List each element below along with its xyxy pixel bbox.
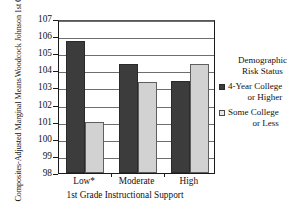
gridline [59, 21, 214, 22]
y-tick-label: 99 [12, 152, 52, 161]
bar-low--series-2 [85, 122, 104, 173]
legend-label-some-college-or-less: Some College or Less [228, 107, 279, 129]
plot-area [58, 20, 215, 174]
bar-high-series-1 [171, 81, 190, 173]
legend-label-4-year-college-or-higher: 4-Year College or Higher [228, 81, 282, 103]
bar-chart-figure: Composites-Adjusted Marginal Means Woodc… [0, 0, 304, 209]
y-tick-label: 101 [12, 118, 52, 127]
y-tick-label: 106 [12, 32, 52, 41]
y-tick-label: 105 [12, 49, 52, 58]
legend-title: Demographic Risk Status [219, 55, 304, 77]
legend-entry-some-college-or-less[interactable]: Some College or Less [219, 107, 304, 129]
bar-low--series-1 [66, 41, 85, 173]
legend-label-line-1: Some College [228, 107, 279, 118]
legend-label-line-2: or Higher [228, 92, 282, 103]
y-tick-label: 104 [12, 66, 52, 75]
chart-legend: Demographic Risk Status 4-Year College o… [219, 55, 304, 129]
bar-high-series-2 [190, 64, 209, 174]
y-tick-label: 100 [12, 135, 52, 144]
bar-moderate-series-1 [119, 64, 138, 174]
y-tick-mark [53, 174, 58, 175]
gridline [59, 38, 214, 39]
legend-swatch-dark-icon [219, 84, 225, 90]
legend-label-line-1: 4-Year College [228, 81, 282, 92]
y-tick-label: 107 [12, 15, 52, 24]
y-tick-label: 102 [12, 101, 52, 110]
legend-title-line-2: Risk Status [242, 66, 283, 76]
legend-swatch-light-icon [219, 110, 225, 116]
bar-moderate-series-2 [138, 82, 157, 173]
y-tick-label: 103 [12, 83, 52, 92]
legend-label-line-2: or Less [228, 118, 279, 129]
legend-title-line-1: Demographic [238, 55, 287, 65]
legend-entry-4-year-college-or-higher[interactable]: 4-Year College or Higher [219, 81, 304, 103]
x-category-label-high: High [149, 176, 229, 186]
x-axis-title: 1st Grade Instructional Support [20, 190, 230, 200]
